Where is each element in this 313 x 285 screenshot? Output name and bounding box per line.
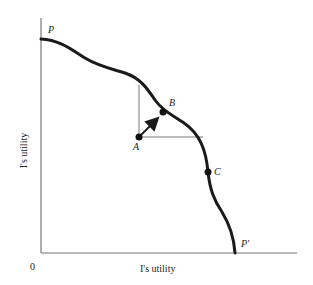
label-p: P — [48, 24, 54, 35]
label-b: B — [169, 97, 175, 108]
label-c: C — [214, 166, 221, 177]
diagram-canvas — [0, 0, 313, 285]
point-a-marker — [136, 134, 143, 141]
origin-label: 0 — [30, 261, 35, 272]
label-p-prime: P′ — [241, 238, 249, 249]
arrow-a-to-b — [139, 119, 157, 137]
point-b-marker — [160, 109, 167, 116]
label-a: A — [133, 141, 139, 152]
point-c-marker — [205, 169, 212, 176]
y-axis-label: I's utility — [18, 126, 29, 176]
x-axis-label: I's utility — [140, 263, 175, 274]
